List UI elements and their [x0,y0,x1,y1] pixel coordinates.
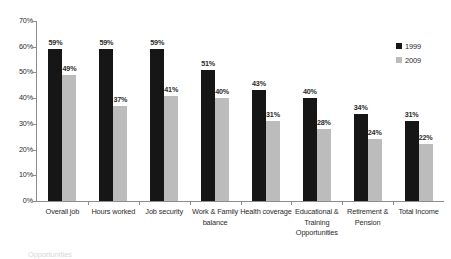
bar-group: 59%41% [139,21,190,201]
legend-swatch-icon [396,57,402,63]
bar-pair: 34%24% [354,21,382,201]
y-axis-tick-mark [32,47,36,48]
bar-value-label: 37% [113,95,127,104]
x-axis-tick-mark [291,201,292,205]
bar-2009[interactable]: 40% [215,98,229,201]
bar-1999[interactable]: 51% [201,70,215,201]
bar-1999[interactable]: 40% [303,98,317,201]
bar-2009[interactable]: 49% [62,75,76,201]
bar-2009[interactable]: 24% [368,139,382,201]
plot-area: 59%49%59%37%59%41%51%40%43%31%40%28%34%2… [37,21,444,201]
x-axis-tick-mark [139,201,140,205]
bar-2009[interactable]: 28% [317,129,331,201]
bar-2009[interactable]: 22% [419,144,433,201]
bar-pair: 59%49% [48,21,76,201]
y-axis-tick-label: 10% [19,170,33,179]
bar-1999[interactable]: 31% [405,121,419,201]
y-axis-tick-mark [32,124,36,125]
y-axis-tick-mark [32,175,36,176]
x-axis-tick-mark [342,201,343,205]
clipped-caption-text: Opportunities [28,250,428,259]
bar-group: 34%24% [342,21,393,201]
y-axis-tick-label: 60% [19,42,33,51]
bar-value-label: 59% [150,38,164,47]
bar-1999[interactable]: 59% [150,49,164,201]
bar-value-label: 34% [354,103,368,112]
legend-swatch-icon [396,43,402,49]
bar-2009[interactable]: 41% [164,96,178,201]
bar-1999[interactable]: 59% [99,49,113,201]
bar-2009[interactable]: 37% [113,106,127,201]
bar-pair: 59%37% [99,21,127,201]
legend-item-2009[interactable]: 2009 [396,54,421,66]
y-axis-tick-label: 70% [19,16,33,25]
y-axis-tick-mark [32,21,36,22]
bar-pair: 59%41% [150,21,178,201]
bar-2009[interactable]: 31% [266,121,280,201]
x-axis-tick-mark [190,201,191,205]
bar-value-label: 22% [419,133,433,142]
bar-1999[interactable]: 34% [354,114,368,201]
bar-value-label: 51% [201,59,215,68]
y-axis-tick-label: 20% [19,145,33,154]
bar-value-label: 43% [252,79,266,88]
bar-group: 59%49% [37,21,88,201]
legend-item-1999[interactable]: 1999 [396,40,421,52]
chart-legend: 19992009 [396,40,421,68]
legend-label: 2009 [405,56,421,65]
y-axis-tick-label: 50% [19,67,33,76]
clipped-caption: Opportunities [28,250,428,259]
bar-pair: 43%31% [252,21,280,201]
bar-pair: 51%40% [201,21,229,201]
bar-1999[interactable]: 59% [48,49,62,201]
bar-value-label: 41% [164,85,178,94]
y-axis-tick-label: 30% [19,119,33,128]
bar-group: 40%28% [291,21,342,201]
y-axis-tick-mark [32,201,36,202]
x-axis-tick-mark [241,201,242,205]
bar-chart: 0%10%20%30%40%50%60%70% 59%49%59%37%59%4… [0,0,451,259]
bar-value-label: 59% [99,38,113,47]
x-axis-label-8: Total Income [389,207,448,218]
bar-value-label: 31% [266,110,280,119]
bar-value-label: 59% [49,38,63,47]
bar-1999[interactable]: 43% [252,90,266,201]
y-axis-tick-mark [32,72,36,73]
bar-group: 43%31% [241,21,292,201]
y-axis-tick-mark [32,98,36,99]
bar-value-label: 49% [63,64,77,73]
bar-value-label: 24% [368,128,382,137]
legend-label: 1999 [405,42,421,51]
bar-group: 59%37% [88,21,139,201]
y-axis-tick-mark [32,150,36,151]
x-axis-tick-mark [393,201,394,205]
y-axis-tick-label: 40% [19,93,33,102]
bar-value-label: 40% [303,87,317,96]
x-axis-tick-mark [88,201,89,205]
bar-value-label: 28% [317,118,331,127]
bar-group: 51%40% [190,21,241,201]
bar-value-label: 40% [215,87,229,96]
bar-pair: 40%28% [303,21,331,201]
bar-value-label: 31% [405,110,419,119]
